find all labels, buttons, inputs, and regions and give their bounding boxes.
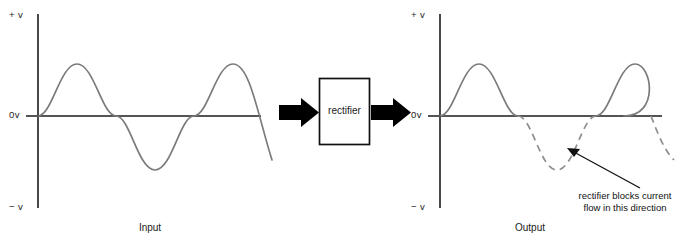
annotation-line-2: flow in this direction	[560, 202, 690, 214]
annotation-line-1: rectifier blocks current	[560, 190, 690, 202]
input-axis-label-positive: + v	[9, 9, 23, 20]
diagram-root: + v 0v − v Input rectifier	[0, 0, 692, 248]
output-axis-label-positive: + v	[411, 9, 425, 20]
output-waveform-panel: + v 0v − v rectifier blocks current flow…	[400, 0, 692, 248]
input-waveform-panel: + v 0v − v Input	[0, 0, 300, 248]
rectifier-block-annotation: rectifier blocks current flow in this di…	[560, 190, 690, 214]
input-caption: Input	[0, 222, 300, 233]
input-sine-wave	[38, 64, 272, 170]
input-waveform-svg	[0, 0, 300, 248]
input-arrow-icon	[279, 98, 319, 127]
annotation-leader-line	[572, 151, 640, 188]
input-axis-label-zero: 0v	[9, 109, 20, 120]
annotation-arrowhead-icon	[567, 148, 580, 157]
rectifier-process-group: rectifier	[275, 70, 415, 150]
output-axis-label-negative: − v	[411, 201, 425, 212]
output-positive-half-cycle-2	[596, 64, 649, 116]
output-axis-label-zero: 0v	[411, 109, 422, 120]
input-axis-label-negative: − v	[9, 201, 23, 212]
output-blocked-half-cycle-2	[651, 116, 674, 160]
output-blocked-half-cycle-1	[518, 116, 596, 170]
output-positive-half-cycle-1	[440, 64, 518, 116]
output-caption: Output	[470, 222, 590, 233]
rectifier-box-label: rectifier	[321, 105, 368, 116]
